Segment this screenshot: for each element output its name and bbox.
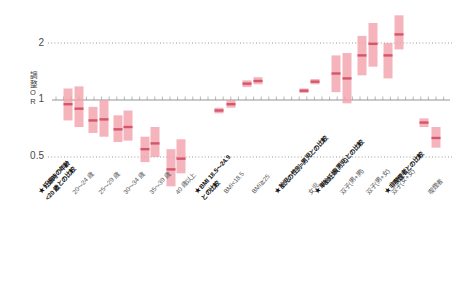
x-axis-label-twin-mm: 双子(男+男)	[338, 167, 366, 196]
x-axis-label-line1: 35〜39 歳	[148, 170, 171, 195]
x-axis-label-line1: 喫煙者	[427, 178, 444, 196]
x-axis-label-age-30-34: 30〜34 歳	[121, 170, 146, 196]
x-axis-label-age-25-29: 25〜29 歳	[96, 170, 121, 196]
x-axis-label-line1: 30〜34 歳	[122, 170, 145, 195]
x-axis-label-line1: 単胎妊娠(男児)との比較	[317, 139, 364, 191]
x-axis-label-age-ref: ★妊娠時の年齢<20 歳との比較	[36, 158, 78, 202]
x-axis-label-line1: 双子(男+男)	[339, 167, 365, 195]
x-axis-label-age-35-39: 35〜39 歳	[147, 170, 172, 196]
x-axis-label-smoke-yes: 喫煙者	[426, 177, 445, 196]
x-axis-label-bmi-high: BMI≧25	[250, 173, 271, 196]
x-axis-labels-group: ★妊娠時の年齢<20 歳との比較20〜24 歳25〜29 歳30〜34 歳35〜…	[0, 0, 456, 297]
x-axis-label-line1: 25〜29 歳	[97, 170, 120, 195]
forest-plot-chart: 調 整 O R 2 1 0.5 ★妊娠時の年齢<20 歳との比較20〜24 歳2…	[0, 0, 456, 297]
x-axis-label-line1: BMI≧25	[250, 173, 271, 195]
